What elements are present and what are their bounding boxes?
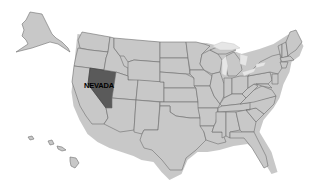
state-hawaii-2[interactable] <box>48 140 54 145</box>
state-new-jersey[interactable] <box>272 74 278 84</box>
state-hawaii-3[interactable] <box>57 146 66 151</box>
state-arkansas[interactable] <box>198 108 218 126</box>
state-south-dakota[interactable] <box>160 58 190 74</box>
us-map <box>0 0 320 185</box>
state-new-mexico[interactable] <box>134 100 160 134</box>
alaska-inset <box>16 12 70 52</box>
state-kansas[interactable] <box>164 88 198 102</box>
state-north-dakota[interactable] <box>160 42 188 58</box>
state-wyoming[interactable] <box>128 60 160 82</box>
state-hawaii-1[interactable] <box>28 136 34 140</box>
state-colorado[interactable] <box>136 80 164 102</box>
state-alaska[interactable] <box>16 12 70 52</box>
state-hawaii-4[interactable] <box>70 157 79 168</box>
nevada-label: NEVADA <box>84 81 114 90</box>
hawaii-inset <box>28 136 79 168</box>
